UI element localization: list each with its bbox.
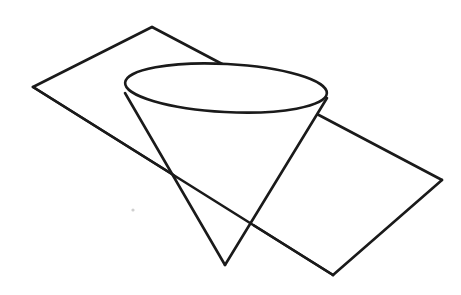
figure-canvas — [0, 0, 461, 295]
scan-speck — [131, 208, 134, 211]
cone-plane-diagram — [0, 0, 461, 295]
